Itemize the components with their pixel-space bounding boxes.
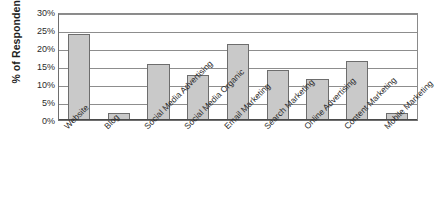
x-axis-label-slot: Social Media Advertising [142,122,182,208]
x-axis-label-slot: Mobile Marketing [382,122,422,208]
y-axis-tick-label: 15% [20,63,55,72]
x-axis-tick-labels: WebsiteBlogSocial Media AdvertisingSocia… [58,122,418,208]
x-axis-label-slot: Website [62,122,102,208]
y-axis-tick-label: 25% [20,27,55,36]
x-axis-label-slot: Blog [102,122,142,208]
x-axis-label-slot: Online Advertising [302,122,342,208]
x-axis-label-slot: Content Marketing [342,122,382,208]
y-axis-tick-label: 0% [20,117,55,126]
bar-chart-figure: % of Respondents 30%25%20%15%10%5%0% Web… [0,0,440,208]
y-axis-tick-label: 5% [20,99,55,108]
bar-slot [59,14,99,120]
y-axis-tick-labels: 30%25%20%15%10%5%0% [20,13,55,121]
x-axis-label-slot: Email Marketing [222,122,262,208]
bar-slot [99,14,139,120]
y-axis-tick-label: 20% [20,45,55,54]
x-axis-label-slot: Search Marketing [262,122,302,208]
x-axis-label-slot: Social Media Organic [182,122,222,208]
y-axis-tick-label: 30% [20,9,55,18]
y-axis-tick-label: 10% [20,81,55,90]
